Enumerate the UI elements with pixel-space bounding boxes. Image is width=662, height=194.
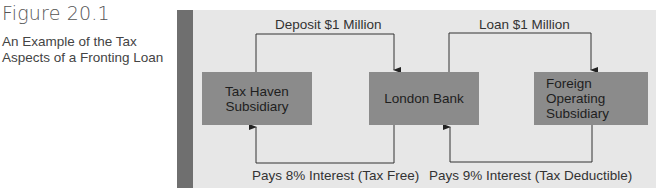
deposit-arrow (256, 34, 394, 72)
interest-9-arrow (450, 124, 592, 162)
loan-arrow (449, 33, 591, 72)
edge-label-interest-8: Pays 8% Interest (Tax Free) (252, 168, 419, 183)
node-label-line2: Subsidiary (546, 106, 648, 121)
node-label-line2: Subsidiary (225, 99, 289, 114)
node-label-line1: Foreign Operating (546, 76, 648, 106)
edge-label-loan: Loan $1 Million (479, 17, 570, 32)
node-tax-haven-subsidiary: Tax Haven Subsidiary (202, 72, 312, 125)
node-label-line1: Tax Haven (225, 84, 289, 99)
node-london-bank: London Bank (369, 72, 479, 125)
edge-label-deposit: Deposit $1 Million (275, 17, 382, 32)
interest-8-arrow (256, 124, 394, 163)
node-label-line1: London Bank (384, 91, 464, 106)
edge-label-interest-9: Pays 9% Interest (Tax Deductible) (429, 168, 632, 183)
node-foreign-operating-subsidiary: Foreign Operating Subsidiary (534, 72, 648, 125)
